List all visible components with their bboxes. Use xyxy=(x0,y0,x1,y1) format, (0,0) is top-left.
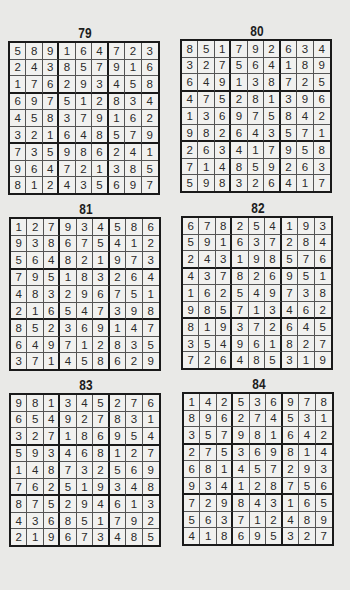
sudoku-cell: 4 xyxy=(297,108,313,125)
sudoku-cell: 5 xyxy=(76,60,92,77)
sudoku-cell: 2 xyxy=(27,219,43,236)
sudoku-cell: 6 xyxy=(77,320,93,337)
sudoku-cell: 9 xyxy=(233,427,249,445)
sudoku-cell: 3 xyxy=(27,513,43,530)
sudoku-cell: 1 xyxy=(217,461,233,478)
sudoku-cell: 9 xyxy=(143,462,159,479)
sudoku-cell: 4 xyxy=(11,286,27,303)
sudoku-cell: 3 xyxy=(110,479,126,497)
sudoku-cell: 1 xyxy=(143,412,159,429)
sudoku-cell: 3 xyxy=(198,108,214,125)
sudoku-cell: 1 xyxy=(264,92,280,109)
sudoku-cell: 4 xyxy=(314,41,330,58)
sudoku-cell: 2 xyxy=(250,478,266,496)
sudoku-cell: 4 xyxy=(60,446,76,463)
sudoku-cell: 9 xyxy=(77,286,93,303)
sudoku-cell: 8 xyxy=(297,58,313,75)
sudoku-cell: 1 xyxy=(110,320,126,337)
sudoku-cell: 6 xyxy=(281,41,297,58)
sudoku-cell: 2 xyxy=(231,92,247,109)
sudoku-cell: 7 xyxy=(282,285,298,302)
sudoku-cell: 8 xyxy=(315,285,331,302)
sudoku-cell: 6 xyxy=(27,479,43,497)
sudoku-cell: 7 xyxy=(77,529,93,545)
sudoku-cell: 6 xyxy=(314,92,330,109)
sudoku-cell: 3 xyxy=(265,302,281,320)
sudoku-cell: 8 xyxy=(43,110,59,127)
sudoku-cell: 5 xyxy=(43,144,59,161)
sudoku-grid: 1279345869386754125648219737951832644832… xyxy=(9,217,161,371)
sudoku-cell: 6 xyxy=(44,513,60,530)
sudoku-cell: 2 xyxy=(110,395,126,412)
sudoku-cell: 1 xyxy=(297,175,313,191)
sudoku-cell: 4 xyxy=(250,495,266,512)
sudoku-cell: 7 xyxy=(314,175,330,191)
sudoku-cell: 1 xyxy=(199,319,215,336)
sudoku-puzzle-79: 79 5891647232438579161762934586975128344… xyxy=(8,27,162,195)
sudoku-cell: 2 xyxy=(299,528,315,544)
sudoku-cell: 6 xyxy=(199,285,215,302)
sudoku-puzzle-84: 84 1425369788962745313579816422753698146… xyxy=(182,378,336,546)
sudoku-cell: 8 xyxy=(109,94,125,111)
sudoku-cell: 7 xyxy=(249,319,265,336)
sudoku-cell: 8 xyxy=(11,320,27,337)
sudoku-cell: 9 xyxy=(215,74,231,92)
sudoku-cell: 1 xyxy=(198,159,214,176)
sudoku-cell: 1 xyxy=(44,353,60,369)
sudoku-cell: 4 xyxy=(142,94,158,111)
sudoku-cell: 5 xyxy=(282,251,298,269)
sudoku-cell: 3 xyxy=(109,161,125,178)
sudoku-cell: 7 xyxy=(316,528,332,544)
sudoku-cell: 6 xyxy=(142,60,158,77)
sudoku-cell: 9 xyxy=(250,528,266,544)
sudoku-cell: 8 xyxy=(110,412,126,429)
sudoku-cell: 1 xyxy=(183,285,199,302)
sudoku-cell: 4 xyxy=(182,92,198,109)
sudoku-cell: 3 xyxy=(126,412,142,429)
sudoku-cell: 6 xyxy=(282,319,298,336)
sudoku-cell: 4 xyxy=(217,478,233,496)
sudoku-cell: 1 xyxy=(60,428,76,446)
sudoku-cell: 5 xyxy=(109,127,125,145)
sudoku-cell: 4 xyxy=(109,76,125,94)
sudoku-cell: 1 xyxy=(77,479,93,497)
sudoku-cell: 4 xyxy=(59,177,75,193)
sudoku-cell: 8 xyxy=(143,479,159,497)
sudoku-cell: 4 xyxy=(77,303,93,321)
sudoku-cell: 9 xyxy=(183,302,199,320)
sudoku-cell: 5 xyxy=(250,461,266,478)
sudoku-cell: 6 xyxy=(44,303,60,321)
sudoku-cell: 6 xyxy=(76,43,92,60)
sudoku-cell: 1 xyxy=(11,462,27,479)
sudoku-cell: 8 xyxy=(110,337,126,354)
sudoku-cell: 2 xyxy=(143,513,159,530)
sudoku-cell: 7 xyxy=(265,235,281,252)
sudoku-cell: 4 xyxy=(199,251,215,269)
sudoku-cell: 6 xyxy=(297,159,313,176)
sudoku-grid: 5891647232438579161762934586975128344583… xyxy=(8,41,160,195)
sudoku-cell: 1 xyxy=(250,512,266,529)
sudoku-cell: 1 xyxy=(43,127,59,145)
sudoku-cell: 2 xyxy=(26,127,42,145)
sudoku-cell: 8 xyxy=(283,445,299,462)
sudoku-cell: 3 xyxy=(281,92,297,109)
sudoku-cell: 6 xyxy=(92,144,108,161)
sudoku-cell: 2 xyxy=(126,446,142,463)
sudoku-cell: 9 xyxy=(231,108,247,125)
sudoku-cell: 2 xyxy=(109,144,125,161)
sudoku-cell: 3 xyxy=(143,496,159,513)
sudoku-cell: 5 xyxy=(248,159,264,176)
sudoku-cell: 2 xyxy=(93,337,109,354)
sudoku-cell: 2 xyxy=(92,94,108,111)
sudoku-cell: 6 xyxy=(125,110,141,127)
sudoku-cell: 5 xyxy=(92,177,108,193)
sudoku-cell: 7 xyxy=(27,496,43,513)
sudoku-cell: 8 xyxy=(282,336,298,353)
sudoku-cell: 9 xyxy=(10,161,26,178)
sudoku-cell: 9 xyxy=(182,125,198,143)
sudoku-cell: 3 xyxy=(76,177,92,193)
sudoku-cell: 9 xyxy=(314,58,330,75)
sudoku-cell: 6 xyxy=(198,142,214,159)
sudoku-cell: 3 xyxy=(44,446,60,463)
sudoku-cell: 6 xyxy=(216,352,232,368)
